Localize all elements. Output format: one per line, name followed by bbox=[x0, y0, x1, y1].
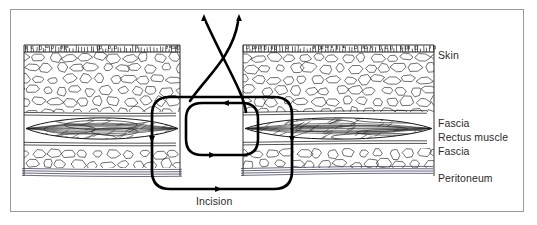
label-fascia-lower: Fascia bbox=[438, 145, 470, 157]
anatomical-diagram bbox=[0, 0, 537, 225]
label-peritoneum: Peritoneum bbox=[438, 172, 493, 184]
label-skin: Skin bbox=[438, 49, 459, 61]
label-rectus-muscle: Rectus muscle bbox=[438, 131, 508, 143]
label-fascia-upper: Fascia bbox=[438, 117, 470, 129]
label-incision: Incision bbox=[196, 195, 232, 207]
tissue-layers bbox=[12, 45, 453, 177]
